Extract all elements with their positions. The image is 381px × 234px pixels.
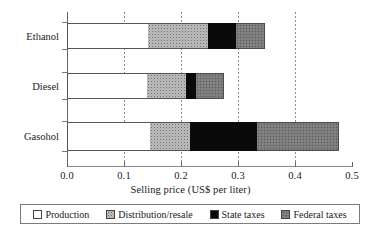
x-tick-3 (238, 162, 239, 167)
x-tick-label-3: 0.3 (231, 170, 245, 181)
legend-label-state-taxes: State taxes (222, 209, 265, 220)
legend-label-federal-taxes: Federal taxes (293, 209, 346, 220)
y-tick (62, 49, 67, 50)
bar-segment-federal-taxes (257, 122, 339, 151)
legend-swatch-production-icon (33, 210, 42, 219)
x-tick-5 (352, 162, 353, 167)
bar-segment-production (67, 73, 147, 99)
bar-segment-distribution (150, 122, 190, 151)
bar-segment-state-taxes (190, 122, 257, 151)
x-tick-1 (124, 162, 125, 167)
bar-row-gasohol (67, 122, 339, 151)
x-axis-line (67, 166, 353, 167)
legend-label-production: Production (45, 209, 89, 220)
legend-label-distribution: Distribution/resale (118, 209, 192, 220)
category-label-diesel: Diesel (32, 81, 59, 92)
chart-legend: Production Distribution/resale State tax… (20, 204, 360, 224)
y-tick (62, 99, 67, 100)
bar-segment-distribution (148, 23, 208, 49)
bar-segment-state-taxes (208, 23, 236, 49)
x-tick-4 (295, 162, 296, 167)
category-label-gasohol: Gasohol (24, 131, 59, 142)
bar-segment-federal-taxes (196, 73, 223, 99)
x-tick-label-5: 0.5 (345, 170, 359, 181)
x-tick-label-4: 0.4 (288, 170, 302, 181)
bar-segment-production (67, 122, 150, 151)
bar-segment-distribution (147, 73, 186, 99)
legend-item-state-taxes: State taxes (210, 209, 265, 220)
stacked-bar-chart: 0.0 0.1 0.2 0.3 0.4 0.5 Selling price (U… (0, 0, 381, 234)
legend-swatch-distribution-icon (106, 210, 115, 219)
legend-item-federal-taxes: Federal taxes (281, 209, 346, 220)
x-tick-0 (67, 162, 68, 167)
legend-swatch-federal-taxes-icon (281, 210, 290, 219)
y-tick (62, 151, 67, 152)
bar-segment-federal-taxes (236, 23, 265, 49)
legend-item-distribution: Distribution/resale (106, 209, 192, 220)
bar-row-diesel (67, 73, 224, 99)
x-tick-label-2: 0.2 (174, 170, 188, 181)
x-tick-label-1: 0.1 (117, 170, 131, 181)
bar-segment-state-taxes (186, 73, 197, 99)
bar-segment-production (67, 23, 148, 49)
legend-item-production: Production (33, 209, 89, 220)
x-axis-title: Selling price (US$ per liter) (0, 184, 381, 195)
category-label-ethanol: Ethanol (26, 31, 59, 42)
legend-swatch-state-taxes-icon (210, 210, 219, 219)
x-tick-label-0: 0.0 (60, 170, 74, 181)
x-tick-2 (181, 162, 182, 167)
bar-row-ethanol (67, 23, 265, 49)
